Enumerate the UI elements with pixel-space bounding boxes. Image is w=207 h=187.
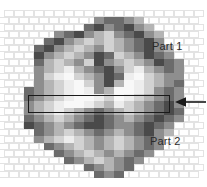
voxel-cell <box>134 150 144 157</box>
brick-cell <box>4 136 14 143</box>
voxel-cell <box>44 108 54 115</box>
voxel-cell <box>124 73 134 80</box>
voxel-cell <box>74 66 84 73</box>
voxel-cell <box>154 94 164 101</box>
voxel-cell <box>94 52 104 59</box>
brick-cell <box>4 10 14 17</box>
voxel-cell <box>74 38 84 45</box>
voxel-cell <box>134 66 144 73</box>
voxel-cell <box>84 108 94 115</box>
voxel-cell <box>44 101 54 108</box>
brick-cell <box>4 164 14 171</box>
voxel-cell <box>104 143 114 150</box>
voxel-cell <box>114 143 124 150</box>
voxel-cell <box>54 80 64 87</box>
voxel-cell <box>94 115 104 122</box>
voxel-cell <box>94 73 104 80</box>
voxel-cell <box>124 101 134 108</box>
voxel-cell <box>34 59 44 66</box>
brick-cell <box>4 52 14 59</box>
voxel-cell <box>114 59 124 66</box>
voxel-cell <box>134 59 144 66</box>
voxel-cell <box>144 87 154 94</box>
voxel-cell <box>44 45 54 52</box>
voxel-cell <box>74 52 84 59</box>
voxel-cell <box>94 164 104 171</box>
voxel-cell <box>34 101 44 108</box>
voxel-cell <box>34 94 44 101</box>
voxel-cell <box>154 66 164 73</box>
voxel-cell <box>64 150 74 157</box>
voxel-cell <box>74 157 84 164</box>
voxel-cell <box>144 150 154 157</box>
voxel-cell <box>54 108 64 115</box>
voxel-cell <box>84 80 94 87</box>
voxel-cell <box>64 157 74 164</box>
voxel-cell <box>144 31 154 38</box>
voxel-cell <box>114 164 124 171</box>
voxel-cell <box>74 143 84 150</box>
voxel-cell <box>34 80 44 87</box>
voxel-cell <box>34 136 44 143</box>
voxel-cell <box>54 129 64 136</box>
voxel-cell <box>114 73 124 80</box>
voxel-cell <box>64 108 74 115</box>
voxel-cell <box>124 129 134 136</box>
voxel-cell <box>74 45 84 52</box>
voxel-cell <box>104 73 114 80</box>
voxel-cell <box>84 59 94 66</box>
voxel-cell <box>94 87 104 94</box>
voxel-cell <box>154 59 164 66</box>
brick-cell <box>4 122 14 129</box>
brick-cell <box>194 10 204 17</box>
voxel-cell <box>114 31 124 38</box>
voxel-cell <box>104 136 114 143</box>
brick-cell <box>0 59 9 66</box>
voxel-cell <box>164 122 174 129</box>
brick-cell <box>0 157 9 164</box>
voxel-cell <box>64 66 74 73</box>
voxel-cell <box>84 143 94 150</box>
voxel-cell <box>104 129 114 136</box>
voxel-cell <box>44 115 54 122</box>
voxel-cell <box>124 87 134 94</box>
voxel-cell <box>114 94 124 101</box>
voxel-cell <box>94 94 104 101</box>
voxel-cell <box>44 80 54 87</box>
voxel-cell <box>114 52 124 59</box>
voxel-cell <box>104 157 114 164</box>
voxel-cell <box>24 115 34 122</box>
voxel-cell <box>54 122 64 129</box>
voxel-cell <box>64 122 74 129</box>
voxel-cell <box>154 73 164 80</box>
brick-cell <box>194 52 204 59</box>
voxel-cell <box>164 66 174 73</box>
voxel-cell <box>114 136 124 143</box>
voxel-cell <box>94 129 104 136</box>
voxel-cell <box>34 129 44 136</box>
voxel-cell <box>44 122 54 129</box>
voxel-cell <box>154 108 164 115</box>
voxel-cell <box>124 31 134 38</box>
brick-cell <box>194 150 204 157</box>
brick-cell <box>0 31 9 38</box>
voxel-cell <box>154 87 164 94</box>
voxel-cell <box>94 80 104 87</box>
voxel-cell <box>104 17 114 24</box>
voxel-cell <box>164 80 174 87</box>
voxel-cell <box>54 45 64 52</box>
voxel-cell <box>84 31 94 38</box>
voxel-cell <box>134 87 144 94</box>
voxel-cell <box>114 17 124 24</box>
voxel-cell <box>74 59 84 66</box>
voxel-cell <box>64 87 74 94</box>
voxel-cell <box>74 80 84 87</box>
brick-cell <box>194 164 204 171</box>
voxel-cell <box>124 38 134 45</box>
voxel-cell <box>144 24 154 31</box>
voxel-cell <box>74 136 84 143</box>
voxel-cell <box>64 129 74 136</box>
voxel-cell <box>104 150 114 157</box>
voxel-cell <box>124 136 134 143</box>
voxel-cell <box>144 108 154 115</box>
